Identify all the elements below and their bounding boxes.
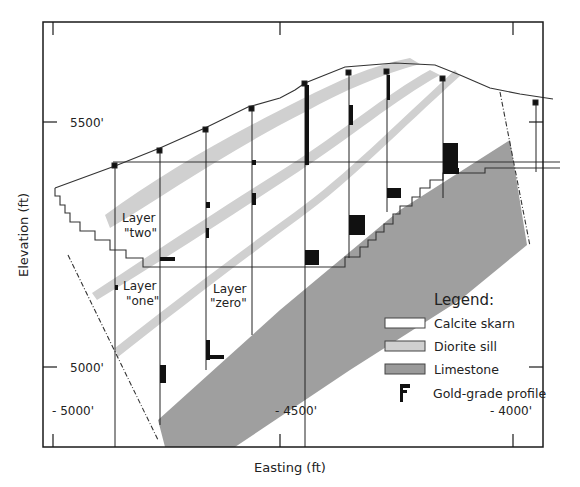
cross-section-svg: 5500' 5000' - 5000' - 4500' - 4000' East…	[0, 0, 580, 487]
x-axis-label: Easting (ft)	[254, 460, 326, 475]
layer-two-label-2: "two"	[124, 226, 157, 240]
legend-swatch-diorite	[385, 341, 425, 351]
legend-title: Legend:	[434, 291, 494, 309]
y-tick-5500: 5500'	[70, 116, 104, 130]
layer-zero-label-1: Layer	[213, 282, 247, 296]
gold-grade-icon	[400, 384, 410, 402]
x-tick-5000: - 5000'	[52, 404, 94, 418]
legend-label-limestone: Limestone	[434, 362, 499, 377]
y-tick-5000: 5000'	[70, 361, 104, 375]
legend-label-calcite: Calcite skarn	[434, 316, 515, 331]
layer-one-label-2: "one"	[126, 294, 159, 308]
layer-one-label-1: Layer	[123, 279, 157, 293]
legend-swatch-calcite	[385, 318, 425, 328]
legend-label-diorite: Diorite sill	[434, 339, 497, 354]
legend-label-gold: Gold-grade profile	[433, 386, 546, 401]
legend-swatch-limestone	[385, 364, 425, 374]
cross-section-figure: 5500' 5000' - 5000' - 4500' - 4000' East…	[0, 0, 580, 487]
x-tick-4500: - 4500'	[275, 404, 317, 418]
y-axis-label: Elevation (ft)	[16, 193, 31, 277]
pit-outline-left	[55, 188, 305, 267]
layer-two-label-1: Layer	[122, 211, 156, 225]
diorite-sill-upper	[105, 58, 420, 228]
layer-zero-label-2: "zero"	[210, 296, 247, 310]
x-tick-4000: - 4000'	[490, 404, 532, 418]
